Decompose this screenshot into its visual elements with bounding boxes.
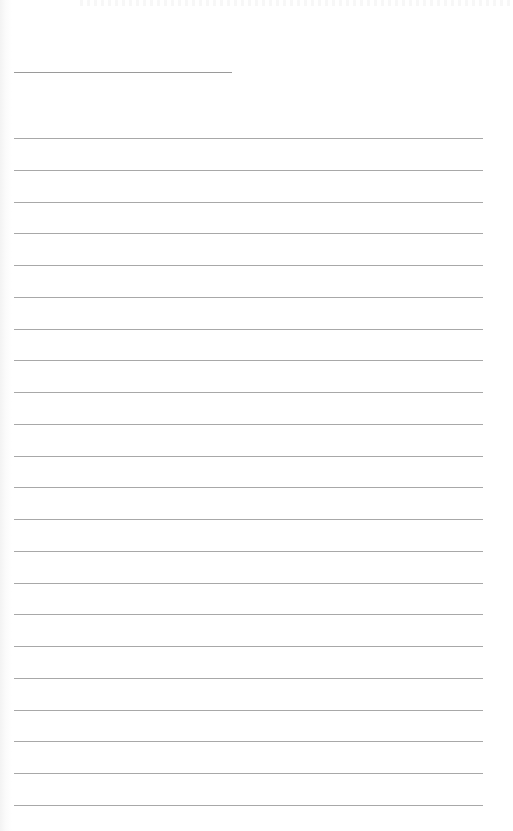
ruled-line	[14, 233, 483, 234]
ruled-line	[14, 265, 483, 266]
ruled-line	[14, 487, 483, 488]
ruled-line	[14, 710, 483, 711]
ruled-line	[14, 297, 483, 298]
ruled-line	[14, 170, 483, 171]
lined-paper-page	[0, 0, 513, 831]
ruled-line	[14, 583, 483, 584]
ruled-line	[14, 773, 483, 774]
header-rule	[14, 72, 232, 73]
ruled-line	[14, 519, 483, 520]
ruled-line	[14, 646, 483, 647]
ruled-line	[14, 741, 483, 742]
ruled-line	[14, 360, 483, 361]
ruled-line	[14, 329, 483, 330]
ruled-line	[14, 202, 483, 203]
ruled-line	[14, 424, 483, 425]
ruled-line	[14, 138, 483, 139]
ruled-line	[14, 456, 483, 457]
ruled-line	[14, 805, 483, 806]
ruled-line	[14, 614, 483, 615]
ruled-line	[14, 678, 483, 679]
bleed-through-text	[80, 0, 510, 6]
ruled-line	[14, 551, 483, 552]
ruled-line	[14, 392, 483, 393]
